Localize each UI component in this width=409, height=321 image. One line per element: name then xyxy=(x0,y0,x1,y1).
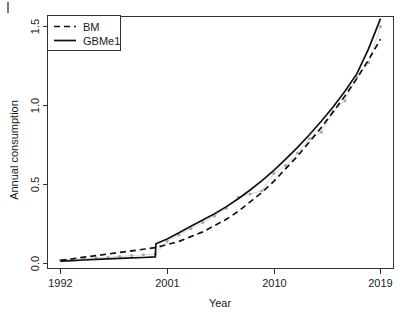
chart-plot-area: 1.5 1.0 0.5 0.0 Annual consumption 1992 … xyxy=(0,0,409,321)
y-tick-label-1-0: 1.0 xyxy=(29,98,41,113)
observed-data-point xyxy=(320,131,323,134)
plot-frame xyxy=(48,17,394,269)
legend-label-bm: BM xyxy=(83,21,100,33)
observed-data-point xyxy=(118,255,121,258)
observed-data-point xyxy=(130,254,133,257)
observed-data-point xyxy=(272,172,275,175)
chart-figure: 1.5 1.0 0.5 0.0 Annual consumption 1992 … xyxy=(0,0,409,321)
observed-series xyxy=(59,25,382,262)
chart-legend: BM GBMe1 xyxy=(48,16,121,51)
y-axis-ticks xyxy=(43,27,48,264)
observed-connector-line xyxy=(61,27,381,261)
x-axis-tick-labels: 1992 2001 2010 2019 xyxy=(48,277,392,289)
observed-point-group xyxy=(59,25,382,262)
observed-data-point xyxy=(343,99,346,102)
series-line-gbme1 xyxy=(61,19,381,262)
observed-data-point xyxy=(260,189,263,192)
series-line-bm xyxy=(61,39,381,260)
x-tick-label-2001: 2001 xyxy=(155,277,179,289)
x-axis-ticks xyxy=(61,269,381,274)
y-tick-label-0-0: 0.0 xyxy=(29,256,41,271)
observed-data-point xyxy=(379,25,382,28)
y-axis-tick-labels: 1.5 1.0 0.5 0.0 xyxy=(29,19,41,271)
legend-label-gbme1: GBMe1 xyxy=(83,35,120,47)
x-tick-label-1992: 1992 xyxy=(48,277,72,289)
observed-data-point xyxy=(142,253,145,256)
observed-data-point xyxy=(249,192,252,195)
y-axis-title: Annual consumption xyxy=(8,100,20,200)
x-tick-label-2010: 2010 xyxy=(262,277,286,289)
observed-data-point xyxy=(308,137,311,140)
x-axis-title: Year xyxy=(209,297,232,309)
y-tick-label-1-5: 1.5 xyxy=(29,19,41,34)
x-tick-label-2019: 2019 xyxy=(368,277,392,289)
y-tick-label-0-5: 0.5 xyxy=(29,177,41,192)
